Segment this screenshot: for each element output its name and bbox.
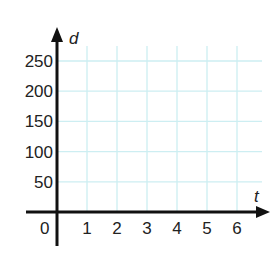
y-tick-label: 250 bbox=[25, 52, 53, 71]
y-tick-label: 50 bbox=[34, 173, 53, 192]
x-tick-label: 4 bbox=[172, 219, 181, 238]
x-tick-label: 3 bbox=[142, 219, 151, 238]
x-tick-label: 5 bbox=[202, 219, 211, 238]
y-tick-label: 150 bbox=[25, 112, 53, 131]
coordinate-grid-chart: 123456 50100150200250 0 t d bbox=[0, 0, 274, 253]
y-axis-arrow-icon bbox=[51, 27, 63, 42]
y-tick-labels: 50100150200250 bbox=[25, 52, 53, 192]
x-tick-labels: 123456 bbox=[82, 219, 241, 238]
x-tick-label: 2 bbox=[112, 219, 121, 238]
x-axis-label: t bbox=[254, 187, 260, 206]
x-tick-label: 1 bbox=[82, 219, 91, 238]
y-axis-label: d bbox=[69, 29, 79, 48]
origin-label: 0 bbox=[40, 219, 49, 238]
y-tick-label: 100 bbox=[25, 143, 53, 162]
axes bbox=[26, 27, 270, 246]
x-axis-arrow-icon bbox=[256, 206, 270, 218]
y-tick-label: 200 bbox=[25, 82, 53, 101]
grid-lines bbox=[57, 46, 262, 212]
x-tick-label: 6 bbox=[232, 219, 241, 238]
